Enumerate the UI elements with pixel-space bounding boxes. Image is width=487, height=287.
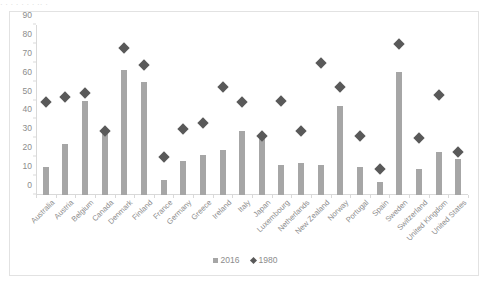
data-column: [252, 25, 272, 195]
chart-frame: 0102030405060708090 AustraliaAustriaBelg…: [9, 11, 479, 276]
y-axis-tick-label: 30: [23, 123, 32, 133]
data-column: [134, 25, 154, 195]
diamond-swatch-icon: [249, 256, 256, 263]
bar-2016: [416, 169, 422, 195]
data-column: [193, 25, 213, 195]
data-column: [448, 25, 468, 195]
x-axis-label: Australia: [29, 198, 56, 225]
marker-1980: [119, 42, 130, 53]
data-column: [173, 25, 193, 195]
marker-1980: [295, 125, 306, 136]
x-axis-label-text: Finland: [130, 198, 154, 222]
bar-2016: [455, 159, 461, 195]
bar-2016: [239, 131, 245, 195]
bar-2016: [357, 167, 363, 195]
y-axis-tick-label: 50: [23, 86, 32, 96]
bar-2016: [377, 182, 383, 195]
bar-2016: [396, 72, 402, 195]
marker-1980: [158, 152, 169, 163]
data-column: [213, 25, 233, 195]
x-axis-label-text: Ireland: [210, 198, 233, 221]
data-column: [272, 25, 292, 195]
square-swatch-icon: [213, 258, 218, 263]
chart-screenshot: · · · · · · · ·· · 0102030405060708090 A…: [0, 0, 487, 287]
plot-area: 0102030405060708090: [36, 25, 468, 195]
y-axis-tick-label: 90: [23, 10, 32, 20]
data-column: [115, 25, 135, 195]
data-column: [56, 25, 76, 195]
data-column: [95, 25, 115, 195]
marker-1980: [394, 38, 405, 49]
marker-1980: [433, 89, 444, 100]
data-column: [409, 25, 429, 195]
y-axis-tick-label: 80: [23, 29, 32, 39]
legend-item[interactable]: 2016: [213, 255, 240, 265]
data-column: [429, 25, 449, 195]
marker-1980: [60, 91, 71, 102]
bar-2016: [141, 82, 147, 195]
y-axis-tick-label: 20: [23, 142, 32, 152]
bar-2016: [43, 167, 49, 195]
y-axis-tick-label: 60: [23, 67, 32, 77]
legend-label: 2016: [221, 255, 240, 265]
marker-1980: [138, 59, 149, 70]
marker-1980: [276, 95, 287, 106]
x-axis-label: Ireland: [210, 198, 233, 221]
data-column: [389, 25, 409, 195]
marker-1980: [217, 82, 228, 93]
bar-2016: [259, 136, 265, 195]
x-axis-label: Greece: [189, 198, 213, 222]
chart-legend: 20161980: [10, 255, 480, 265]
legend-label: 1980: [259, 255, 278, 265]
data-column: [232, 25, 252, 195]
y-axis-tick-label: 40: [23, 104, 32, 114]
x-axis-tickmark: [468, 195, 469, 198]
marker-1980: [354, 131, 365, 142]
data-column: [75, 25, 95, 195]
bar-2016: [102, 133, 108, 195]
bar-2016: [220, 150, 226, 195]
data-column: [370, 25, 390, 195]
bar-2016: [278, 165, 284, 195]
marker-1980: [453, 146, 464, 157]
bar-2016: [298, 163, 304, 195]
data-column: [331, 25, 351, 195]
marker-1980: [335, 82, 346, 93]
bar-2016: [200, 155, 206, 195]
legend-item[interactable]: 1980: [251, 255, 278, 265]
bar-2016: [82, 101, 88, 195]
bar-2016: [180, 161, 186, 195]
marker-1980: [40, 97, 51, 108]
x-axis-label-text: Italy: [236, 198, 252, 214]
marker-1980: [374, 163, 385, 174]
x-axis-label: Finland: [130, 198, 154, 222]
data-column: [36, 25, 56, 195]
data-column: [311, 25, 331, 195]
cut-off-text-strip: · · · · · · · ·· ·: [0, 0, 487, 9]
x-axis-label-text: Greece: [189, 198, 213, 222]
bar-2016: [161, 180, 167, 195]
y-axis-tick-label: 70: [23, 48, 32, 58]
y-axis-tick-label: 0: [27, 180, 32, 190]
bar-2016: [337, 106, 343, 195]
x-axis-label-text: Australia: [29, 198, 56, 225]
marker-1980: [197, 118, 208, 129]
marker-1980: [315, 57, 326, 68]
data-column: [350, 25, 370, 195]
bar-2016: [318, 165, 324, 195]
marker-1980: [79, 87, 90, 98]
data-column: [154, 25, 174, 195]
x-axis-label: Italy: [236, 198, 252, 214]
data-column: [291, 25, 311, 195]
marker-1980: [413, 133, 424, 144]
x-axis-labels: AustraliaAustriaBelgiumCanadaDenmarkFinl…: [36, 196, 468, 258]
y-axis-tick-label: 10: [23, 161, 32, 171]
bar-2016: [62, 144, 68, 195]
marker-1980: [237, 97, 248, 108]
marker-1980: [178, 123, 189, 134]
bar-2016: [121, 70, 127, 195]
bar-2016: [436, 152, 442, 195]
